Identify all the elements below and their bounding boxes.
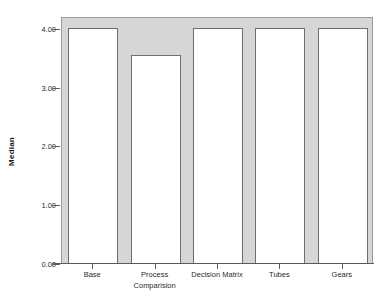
x-axis-tick-mark xyxy=(92,264,93,269)
y-axis-tick-mark xyxy=(53,29,60,30)
x-axis-tick-label: Tubes xyxy=(269,270,290,279)
bar-tubes xyxy=(255,28,305,263)
y-axis-tick-mark xyxy=(53,264,60,265)
bar-chart: Median 0.001.002.003.004.00 BaseProcessD… xyxy=(0,0,384,302)
y-axis-ticks xyxy=(53,0,61,302)
y-axis-tick-label: 3.00 xyxy=(20,83,56,92)
y-axis-title-text: Median xyxy=(7,137,16,166)
y-axis-tick-label: 0.00 xyxy=(20,260,56,269)
bar-process xyxy=(131,55,181,263)
y-axis-tick-labels: 0.001.002.003.004.00 xyxy=(20,0,56,302)
y-axis-tick-mark xyxy=(53,205,60,206)
x-axis-tick-mark xyxy=(155,264,156,269)
bars-container xyxy=(62,18,372,263)
y-axis-tick-mark xyxy=(53,146,60,147)
x-axis-tick-labels: BaseProcessDecision MatrixTubesGears xyxy=(61,270,373,286)
y-axis-tick-mark xyxy=(53,88,60,89)
x-axis-title: Comparision xyxy=(134,281,176,290)
x-axis-tick-label: Base xyxy=(84,270,101,279)
y-axis-tick-label: 4.00 xyxy=(20,24,56,33)
plot-area xyxy=(61,17,373,264)
bar-gears xyxy=(318,28,368,263)
bar-decision-matrix xyxy=(193,28,243,263)
y-axis-tick-label: 2.00 xyxy=(20,142,56,151)
x-axis-tick-mark xyxy=(342,264,343,269)
y-axis-title: Median xyxy=(2,0,20,302)
x-axis-tick-mark xyxy=(279,264,280,269)
y-axis-tick-label: 1.00 xyxy=(20,201,56,210)
x-axis-tick-label: Process xyxy=(141,270,168,279)
x-axis-tick-mark xyxy=(217,264,218,269)
x-axis-tick-label: Gears xyxy=(332,270,352,279)
x-axis-tick-label: Decision Matrix xyxy=(191,270,242,279)
bar-base xyxy=(68,28,118,263)
